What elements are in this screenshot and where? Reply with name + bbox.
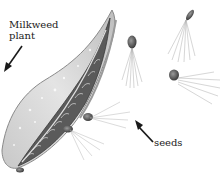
floating-seed: [169, 70, 220, 105]
arrow-to-plant: [4, 46, 22, 72]
floating-seed: [122, 36, 142, 89]
arrow-to-seeds: [135, 120, 153, 142]
milkweed-plant-label: Milkweed plant: [9, 19, 59, 41]
floating-seed: [168, 9, 195, 62]
seed: [16, 168, 24, 173]
milkweed-diagram: Milkweed plant seeds: [0, 0, 222, 173]
label-line: plant: [9, 30, 59, 41]
label-line: Milkweed: [9, 19, 59, 30]
seeds-label: seeds: [154, 137, 183, 148]
